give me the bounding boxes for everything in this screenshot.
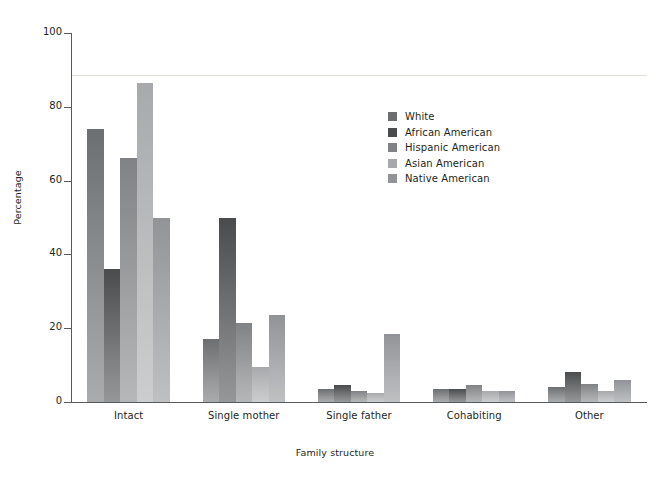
bar bbox=[252, 367, 269, 402]
bar bbox=[466, 385, 483, 402]
bar bbox=[449, 389, 466, 402]
bar bbox=[565, 372, 582, 402]
bar bbox=[598, 391, 615, 402]
legend-item: Asian American bbox=[388, 156, 500, 172]
legend-swatch-icon bbox=[388, 159, 397, 168]
legend-item: Native American bbox=[388, 171, 500, 187]
bar bbox=[318, 389, 335, 402]
bar bbox=[367, 393, 384, 402]
bar bbox=[137, 83, 154, 402]
bar bbox=[203, 339, 220, 402]
y-axis-tick bbox=[64, 402, 71, 403]
legend-item: African American bbox=[388, 125, 500, 141]
bar bbox=[548, 387, 565, 402]
x-axis-line bbox=[71, 402, 647, 403]
x-axis-category-label: Cohabiting bbox=[417, 410, 532, 421]
bar bbox=[269, 315, 286, 402]
y-axis-tick-label: 80 bbox=[0, 100, 62, 111]
bar bbox=[219, 218, 236, 403]
x-axis-category-label: Other bbox=[532, 410, 647, 421]
bar bbox=[482, 391, 499, 402]
bar bbox=[581, 384, 598, 402]
legend-label: African American bbox=[405, 127, 492, 138]
bar bbox=[614, 380, 631, 402]
legend-label: Native American bbox=[405, 173, 490, 184]
bar bbox=[334, 385, 351, 402]
faint-gridline bbox=[71, 75, 647, 76]
y-axis-tick-label: 100 bbox=[0, 26, 62, 37]
y-axis-tick-label: 40 bbox=[0, 247, 62, 258]
bar bbox=[153, 218, 170, 403]
legend-label: Hispanic American bbox=[405, 142, 500, 153]
y-axis-tick-label: 60 bbox=[0, 174, 62, 185]
x-axis-title: Family structure bbox=[0, 447, 670, 458]
legend-swatch-icon bbox=[388, 112, 397, 121]
y-axis-line bbox=[71, 33, 72, 402]
legend-swatch-icon bbox=[388, 128, 397, 137]
legend-swatch-icon bbox=[388, 143, 397, 152]
bar bbox=[104, 269, 121, 402]
bar-chart: Percentage Family structure 020406080100… bbox=[0, 0, 670, 480]
x-axis-category-label: Single father bbox=[301, 410, 416, 421]
y-axis-tick bbox=[64, 254, 71, 255]
y-axis-tick bbox=[64, 328, 71, 329]
y-axis-tick-label: 0 bbox=[0, 395, 62, 406]
y-axis-tick bbox=[64, 33, 71, 34]
bar bbox=[351, 391, 368, 402]
bar bbox=[120, 158, 137, 402]
legend-swatch-icon bbox=[388, 174, 397, 183]
y-axis-tick bbox=[64, 181, 71, 182]
bar bbox=[499, 391, 516, 402]
legend-label: Asian American bbox=[405, 158, 484, 169]
bar bbox=[433, 389, 450, 402]
y-axis-tick-label: 20 bbox=[0, 321, 62, 332]
bar bbox=[384, 334, 401, 402]
x-axis-category-label: Intact bbox=[71, 410, 186, 421]
bar bbox=[87, 129, 104, 402]
bar bbox=[236, 323, 253, 402]
legend-item: Hispanic American bbox=[388, 140, 500, 156]
y-axis-tick bbox=[64, 107, 71, 108]
legend: WhiteAfrican AmericanHispanic AmericanAs… bbox=[388, 109, 500, 187]
legend-label: White bbox=[405, 111, 435, 122]
legend-item: White bbox=[388, 109, 500, 125]
x-axis-category-label: Single mother bbox=[186, 410, 301, 421]
